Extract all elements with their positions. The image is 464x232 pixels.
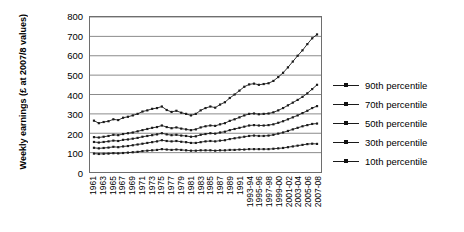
data-point [185, 128, 187, 130]
data-point [180, 149, 182, 151]
x-axis-tick: 1993-94 [246, 176, 254, 207]
data-point [277, 147, 279, 149]
x-axis-tick: 2001-02 [285, 176, 293, 207]
data-point [103, 147, 105, 149]
data-point [267, 112, 269, 114]
data-point [170, 149, 172, 151]
y-axis-tick: 600 [67, 50, 83, 61]
data-point [180, 141, 182, 143]
data-point [137, 151, 139, 153]
data-point [277, 109, 279, 111]
legend-item[interactable]: 70th percentile [333, 95, 461, 114]
data-point [146, 135, 148, 137]
data-point [190, 142, 192, 144]
series-50th-percentile [93, 105, 318, 144]
data-point [141, 110, 143, 112]
data-point [316, 122, 318, 124]
data-point [311, 143, 313, 145]
legend-item[interactable]: 30th percentile [333, 133, 461, 152]
y-axis-tick: 100 [67, 148, 83, 159]
data-point [297, 145, 299, 147]
data-point [185, 141, 187, 143]
y-axis-tick: 700 [67, 30, 83, 41]
data-point [263, 124, 265, 126]
x-axis-tick: 1973 [148, 176, 156, 195]
data-point [282, 72, 284, 74]
data-point [306, 110, 308, 112]
x-axis-tick: 1963 [99, 176, 107, 195]
legend-marker-icon [333, 157, 359, 167]
data-point [224, 131, 226, 133]
data-point [151, 141, 153, 143]
x-axis-tick: 1967 [118, 176, 126, 195]
data-point [248, 113, 250, 115]
data-point [258, 135, 260, 137]
data-point [161, 148, 163, 150]
data-point [214, 150, 216, 152]
data-point [107, 135, 109, 137]
data-point [287, 118, 289, 120]
data-point [311, 107, 313, 109]
legend-item[interactable]: 10th percentile [333, 152, 461, 171]
data-point [107, 153, 109, 155]
data-point [122, 117, 124, 119]
data-point [292, 60, 294, 62]
data-point [122, 133, 124, 135]
data-point [301, 144, 303, 146]
data-point [132, 151, 134, 153]
data-point [175, 148, 177, 150]
data-point [292, 116, 294, 118]
data-point [234, 128, 236, 130]
y-axis-tick: 800 [67, 11, 83, 22]
data-point [112, 152, 114, 154]
data-point [166, 109, 168, 111]
data-point [243, 86, 245, 88]
data-point [277, 133, 279, 135]
data-point [195, 113, 197, 115]
data-point [297, 99, 299, 101]
data-point [137, 130, 139, 132]
data-point [272, 148, 274, 150]
data-point [103, 121, 105, 123]
data-point [185, 113, 187, 115]
data-point [204, 149, 206, 151]
data-point [98, 122, 100, 124]
data-point [297, 114, 299, 116]
data-point [253, 124, 255, 126]
data-point [301, 96, 303, 98]
data-point [132, 138, 134, 140]
data-point [209, 124, 211, 126]
data-point [301, 112, 303, 114]
series-line [94, 34, 317, 123]
x-axis-tick: 1961 [89, 176, 97, 195]
data-point [190, 114, 192, 116]
y-axis-title: Weekly earnings (£ at 2007/8 values) [10, 12, 36, 172]
data-point [93, 141, 95, 143]
data-point [107, 146, 109, 148]
data-point [117, 134, 119, 136]
legend-marker-icon [333, 119, 359, 129]
data-point [267, 148, 269, 150]
data-point [190, 129, 192, 131]
legend-item[interactable]: 90th percentile [333, 76, 461, 95]
data-point [297, 127, 299, 129]
data-point [214, 125, 216, 127]
data-point [248, 124, 250, 126]
x-axis-tick: 1989 [226, 176, 234, 195]
data-point [103, 153, 105, 155]
x-axis-tick: 1991 [236, 176, 244, 195]
data-point [156, 140, 158, 142]
legend-item[interactable]: 50th percentile [333, 114, 461, 133]
data-point [219, 131, 221, 133]
x-axis-tick: 2007-08 [314, 176, 322, 207]
x-axis-tick: 1983 [197, 176, 205, 195]
x-axis-tick: 1969 [128, 176, 136, 195]
data-point [132, 114, 134, 116]
data-point [185, 135, 187, 137]
data-point [166, 148, 168, 150]
x-axis-tick: 1977 [167, 176, 175, 195]
data-point [214, 140, 216, 142]
data-point [306, 143, 308, 145]
data-point [214, 133, 216, 135]
data-point [200, 109, 202, 111]
